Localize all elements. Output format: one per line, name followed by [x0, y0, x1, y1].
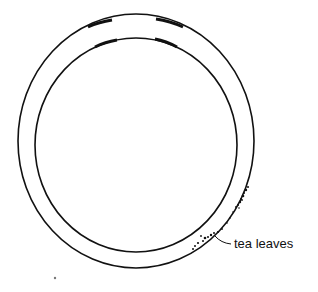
tea-leaves-leader-line: [215, 236, 231, 244]
rim-highlight: [155, 39, 177, 47]
tea-leaves-label: tea leaves: [234, 236, 293, 251]
rim-highlight: [95, 40, 117, 47]
outer-rim: [18, 14, 254, 268]
stray-mark: [54, 277, 56, 279]
inner-rim: [35, 38, 237, 252]
